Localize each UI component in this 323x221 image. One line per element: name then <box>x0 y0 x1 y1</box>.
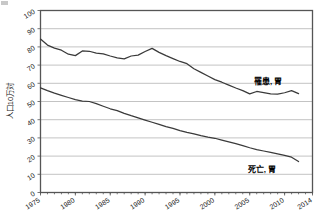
series-label-mortality: 死亡, 胃 <box>247 164 276 174</box>
stomach-cancer-incidence-mortality-chart: 0102030405060708090100 19751980198519901… <box>0 0 323 221</box>
corner-marker <box>1 1 8 5</box>
chart-container: 0102030405060708090100 19751980198519901… <box>0 0 323 221</box>
chart-background <box>0 0 323 221</box>
y-axis-title: 人口10万対 <box>5 82 15 119</box>
series-label-incidence: 罹患, 胃 <box>254 76 282 86</box>
